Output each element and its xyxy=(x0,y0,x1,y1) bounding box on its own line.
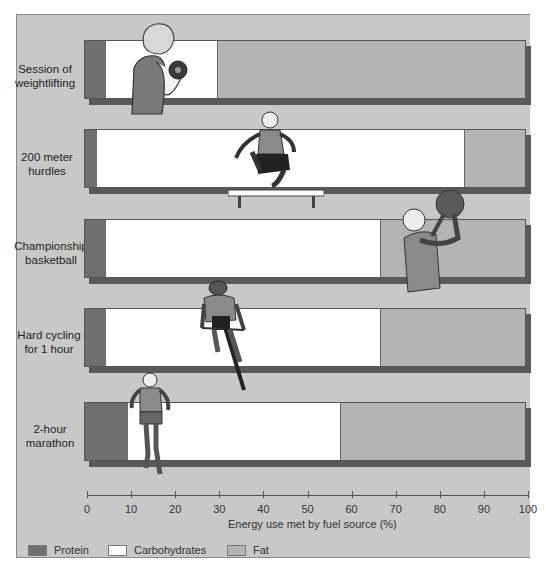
label-line: basketball xyxy=(14,253,88,267)
row-label-marathon: 2-hour marathon xyxy=(15,422,85,450)
fat-swatch xyxy=(227,545,246,556)
axis-tick-label: 70 xyxy=(390,503,402,515)
label-line: Championship xyxy=(14,239,88,253)
row-label-weightlifting: Session of weightlifting xyxy=(10,62,80,90)
axis-tick-label: 20 xyxy=(169,503,181,515)
cyclist-icon xyxy=(200,280,252,396)
fat-segment xyxy=(217,40,526,99)
carbohydrates-swatch xyxy=(108,545,127,556)
label-line: Hard cycling xyxy=(14,328,84,342)
legend-label: Fat xyxy=(253,544,269,556)
stacked-bar xyxy=(84,308,526,367)
label-line: weightlifting xyxy=(10,76,80,90)
axis-tick xyxy=(352,491,353,498)
axis-tick-label: 30 xyxy=(213,503,225,515)
axis-tick-label: 60 xyxy=(345,503,357,515)
axis-tick xyxy=(87,491,88,498)
axis-tick xyxy=(484,491,485,498)
row-label-cycling: Hard cycling for 1 hour xyxy=(14,328,84,356)
axis-tick-label: 50 xyxy=(301,503,313,515)
row-label-hurdles: 200 meter hurdles xyxy=(12,150,82,178)
legend-item-protein: Protein xyxy=(28,543,89,557)
axis-tick xyxy=(263,491,264,498)
fat-segment xyxy=(464,129,526,188)
axis-tick xyxy=(396,491,397,498)
legend-label: Protein xyxy=(54,544,89,556)
legend-label: Carbohydrates xyxy=(134,544,206,556)
row-label-basketball: Championship basketball xyxy=(14,239,88,267)
label-line: 200 meter xyxy=(12,150,82,164)
axis-tick xyxy=(131,491,132,498)
axis-tick-label: 10 xyxy=(125,503,137,515)
axis-tick xyxy=(308,491,309,498)
label-line: marathon xyxy=(15,436,85,450)
axis-tick-label: 40 xyxy=(257,503,269,515)
fat-segment xyxy=(380,308,526,367)
carbs-segment xyxy=(106,219,380,278)
axis-tick-label: 90 xyxy=(478,503,490,515)
protein-swatch xyxy=(28,545,47,556)
axis-tick-label: 100 xyxy=(519,503,537,515)
hurdler-icon xyxy=(228,108,324,210)
axis-tick xyxy=(528,491,529,498)
legend-item-fat: Fat xyxy=(227,543,269,557)
protein-segment xyxy=(84,219,106,278)
protein-segment xyxy=(84,129,97,188)
axis-tick-label: 80 xyxy=(434,503,446,515)
axis-tick-label: 0 xyxy=(84,503,90,515)
legend-item-carbohydrates: Carbohydrates xyxy=(108,543,206,557)
fat-segment xyxy=(340,402,526,461)
label-line: for 1 hour xyxy=(14,342,84,356)
x-axis-title: Energy use met by fuel source (%) xyxy=(228,518,397,530)
protein-segment xyxy=(84,40,106,99)
basketball-player-icon xyxy=(400,188,470,296)
protein-segment xyxy=(84,308,106,367)
axis-tick xyxy=(219,491,220,498)
runner-icon xyxy=(128,372,174,478)
axis-tick xyxy=(175,491,176,498)
axis-tick xyxy=(440,491,441,498)
label-line: hurdles xyxy=(12,164,82,178)
label-line: 2-hour xyxy=(15,422,85,436)
weightlifter-icon xyxy=(126,18,194,118)
label-line: Session of xyxy=(10,62,80,76)
protein-segment xyxy=(84,402,128,461)
